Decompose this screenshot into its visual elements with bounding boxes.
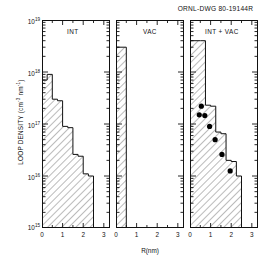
data-point-6: [228, 168, 233, 173]
y-axis-units-exp-1: -3: [16, 98, 21, 103]
y-tick-label-1e15: 1015: [8, 223, 40, 231]
x-tick-label-p3-1: 1: [205, 231, 217, 238]
y-axis-units-exp-2: -1: [16, 82, 21, 87]
y-axis-units-close: ): [17, 79, 24, 81]
x-tick-label-p2-0: 0: [110, 231, 122, 238]
panel-vac: VAC: [116, 20, 184, 228]
y-tick-label-1e19: 1019: [8, 17, 40, 25]
x-tick-label-p1-2: 2: [77, 231, 89, 238]
x-tick-label-p2-1: 1: [131, 231, 143, 238]
panel-int-hist: [42, 74, 94, 228]
x-tick-label-p3-3: 3: [246, 231, 258, 238]
data-point-5: [219, 152, 224, 157]
data-point-4: [213, 137, 218, 142]
x-axis-label: R(nm): [116, 247, 184, 254]
y-tick-label-1e17: 1017: [8, 121, 40, 129]
y-axis-units-mid: nm: [17, 86, 24, 97]
x-tick-label-p1-0: 0: [36, 231, 48, 238]
x-tick-label-p1-1: 1: [57, 231, 69, 238]
x-tick-label-p2-3: 3: [172, 231, 184, 238]
panel-int-vac-plot: [190, 20, 258, 228]
drawing-id-label: ORNL-DWG 80-19144R: [168, 5, 263, 12]
panel-int-plot: [42, 20, 110, 228]
data-point-0: [199, 104, 204, 109]
figure-root: ORNL-DWG 80-19144R LOOP DENSITY (cm-3 nm…: [0, 0, 265, 272]
panel-int: INT: [42, 20, 110, 228]
data-point-2: [202, 113, 207, 118]
x-tick-label-p1-3: 3: [98, 231, 110, 238]
data-point-1: [197, 112, 202, 117]
panel-int-vac-label: INT + VAC: [205, 28, 239, 35]
panel-vac-label: VAC: [143, 28, 157, 35]
x-tick-label-p3-0: 0: [184, 231, 196, 238]
y-axis-units-open: (cm: [17, 102, 24, 113]
y-tick-label-1e18: 1018: [8, 69, 40, 77]
panel-int-label: INT: [67, 28, 79, 35]
data-point-3: [207, 124, 212, 129]
x-tick-label-p2-2: 2: [151, 231, 163, 238]
panel-int-vac-hist: [190, 41, 242, 228]
x-tick-label-p3-2: 2: [225, 231, 237, 238]
y-tick-label-1e16: 1016: [8, 173, 40, 181]
panel-vac-plot: [116, 20, 184, 228]
panel-int-vac: INT + VAC: [190, 20, 258, 228]
